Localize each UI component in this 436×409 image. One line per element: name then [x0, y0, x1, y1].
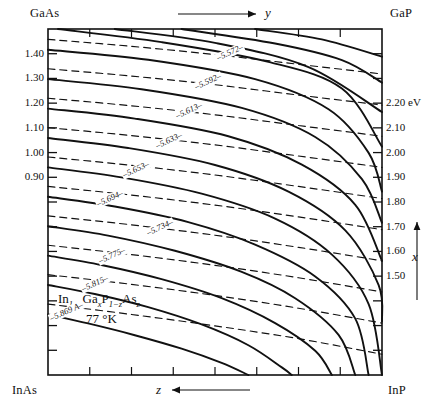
formula-p: P — [102, 291, 109, 306]
left-tick-label: 1.20 — [6, 96, 44, 108]
formula-sub-z: z — [137, 299, 140, 309]
right-tick-label: 2.20 eV — [386, 96, 421, 108]
formula-as: As — [122, 291, 136, 306]
left-tick-label: 0.90 — [6, 170, 44, 182]
left-tick-label: 1.30 — [6, 71, 44, 83]
top-axis-variable-y: y — [265, 5, 271, 21]
formula-in: In — [58, 291, 69, 306]
contour-lattice-5.653 — [48, 157, 382, 199]
right-tick-label: 1.70 — [386, 220, 405, 232]
contour-bandgap-1.60eV — [48, 109, 382, 261]
temperature-label: 77 °K — [86, 311, 117, 327]
bottom-axis-variable-z: z — [156, 382, 161, 398]
semiconductor-contour-figure: GaAs GaP InAs InP y z x In1−xGaxP1−zAsz … — [0, 0, 436, 409]
right-axis-variable-x: x — [412, 249, 418, 265]
contour-bandgap-0.90eV — [48, 314, 248, 375]
right-tick-label: 2.00 — [386, 146, 405, 158]
right-tick-label: 1.50 — [386, 269, 405, 281]
corner-label-gap: GaP — [390, 6, 412, 21]
left-tick-label: 1.10 — [6, 121, 44, 133]
right-tick-label: 2.10 — [386, 121, 405, 133]
corner-label-inp: InP — [388, 383, 406, 398]
right-tick-label: 1.80 — [386, 195, 405, 207]
right-tick-label: 1.90 — [386, 170, 405, 182]
formula-ga: Ga — [83, 291, 98, 306]
contour-bandgap-1.90eV — [58, 29, 382, 147]
left-tick-label: 1.40 — [6, 47, 44, 59]
right-tick-label: 1.60 — [386, 244, 405, 256]
left-tick-label: 1.00 — [6, 146, 44, 158]
corner-label-inas: InAs — [12, 383, 37, 398]
contour-lattice-5.613 — [48, 98, 382, 136]
formula-sub-1mz: 1−z — [109, 299, 122, 309]
corner-label-gaas: GaAs — [30, 6, 59, 21]
